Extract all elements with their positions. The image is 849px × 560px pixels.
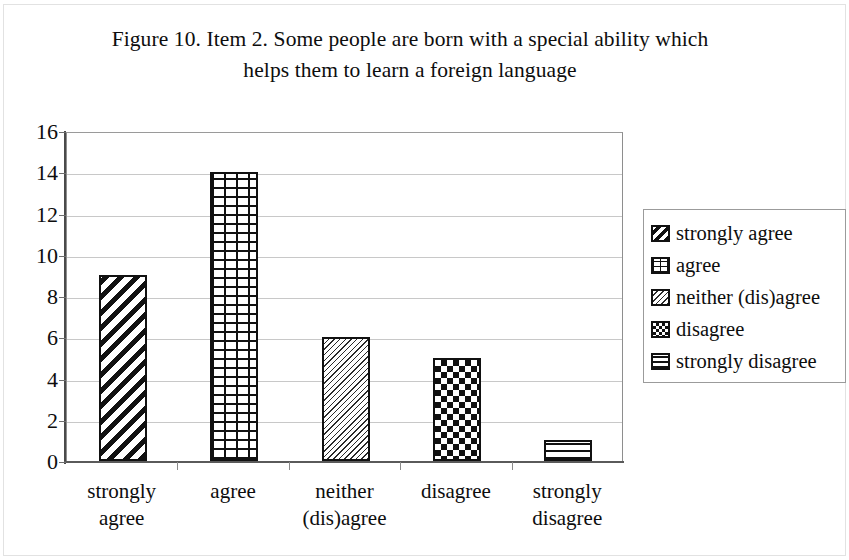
x-axis-label: stronglydisagree xyxy=(512,478,623,532)
x-axis-tick-mark xyxy=(400,462,401,470)
y-axis-tick-label: 0 xyxy=(18,451,58,473)
x-axis-label-line: disagree xyxy=(400,478,511,505)
y-axis-tick-mark xyxy=(59,173,66,174)
y-axis-tick-label: 10 xyxy=(18,245,58,267)
x-axis-label-line: agree xyxy=(66,505,177,532)
bar-strongly-agree xyxy=(99,275,147,461)
y-axis-tick-label: 2 xyxy=(18,410,58,432)
figure-page: Figure 10. Item 2. Some people are born … xyxy=(0,0,849,560)
legend-item: disagree xyxy=(651,313,839,345)
figure-title-line-2: helps them to learn a foreign language xyxy=(60,55,760,86)
legend-item: agree xyxy=(651,249,839,281)
y-axis-tick-label: 14 xyxy=(18,162,58,184)
legend-swatch-diagonal-wide-icon xyxy=(651,225,670,242)
y-axis-tick-label: 4 xyxy=(18,369,58,391)
figure-title: Figure 10. Item 2. Some people are born … xyxy=(60,24,760,86)
y-axis-tick-label: 6 xyxy=(18,327,58,349)
bar-disagree xyxy=(433,358,481,461)
bar-neither-dis-agree xyxy=(322,337,370,461)
x-axis-label-line: strongly xyxy=(66,478,177,505)
gridline xyxy=(67,298,622,299)
y-axis-tick-label: 16 xyxy=(18,121,58,143)
x-axis-label-line: disagree xyxy=(512,505,623,532)
x-axis-tick-mark xyxy=(512,462,513,470)
y-axis-tick-mark xyxy=(59,215,66,216)
y-axis-tick-mark xyxy=(59,421,66,422)
x-axis-line xyxy=(64,461,624,463)
chart-legend: strongly agreeagreeneither (dis)agreedis… xyxy=(643,209,846,383)
legend-swatch-horizontal-lines-icon xyxy=(651,353,670,370)
x-axis-tick-mark xyxy=(177,462,178,470)
figure-title-line-1: Figure 10. Item 2. Some people are born … xyxy=(60,24,760,55)
y-axis-tick-mark xyxy=(59,338,66,339)
plot-area xyxy=(66,132,623,462)
y-axis-labels: 0246810121416 xyxy=(12,0,58,560)
legend-label: strongly agree xyxy=(676,222,793,244)
legend-item: strongly agree xyxy=(651,217,839,249)
legend-label: strongly disagree xyxy=(676,350,817,372)
legend-label: neither (dis)agree xyxy=(676,286,820,308)
legend-swatch-brick-icon xyxy=(651,257,670,274)
y-axis-tick-mark xyxy=(59,297,66,298)
y-axis-tick-mark xyxy=(59,462,66,463)
x-axis-tick-mark xyxy=(289,462,290,470)
x-axis-label: disagree xyxy=(400,478,511,505)
y-axis-tick-mark xyxy=(59,256,66,257)
legend-item: neither (dis)agree xyxy=(651,281,839,313)
y-axis-tick-label: 12 xyxy=(18,204,58,226)
bar-agree xyxy=(210,172,258,461)
legend-swatch-checkerboard-icon xyxy=(651,321,670,338)
gridline xyxy=(67,216,622,217)
x-axis-label: neither(dis)agree xyxy=(289,478,400,532)
plot-inner xyxy=(67,133,622,461)
gridline xyxy=(67,174,622,175)
y-axis-tick-mark xyxy=(59,380,66,381)
y-axis-tick-mark xyxy=(59,132,66,133)
gridline xyxy=(67,257,622,258)
x-axis-label-line: agree xyxy=(177,478,288,505)
x-axis-label-line: strongly xyxy=(512,478,623,505)
x-axis-label: agree xyxy=(177,478,288,505)
y-axis-tick-label: 8 xyxy=(18,286,58,308)
legend-label: agree xyxy=(676,254,720,276)
x-axis-label-line: (dis)agree xyxy=(289,505,400,532)
legend-item: strongly disagree xyxy=(651,345,839,377)
legend-swatch-diagonal-fine-icon xyxy=(651,289,670,306)
legend-label: disagree xyxy=(676,318,744,340)
x-axis-label-line: neither xyxy=(289,478,400,505)
bar-strongly-disagree xyxy=(544,440,592,461)
x-axis-label: stronglyagree xyxy=(66,478,177,532)
